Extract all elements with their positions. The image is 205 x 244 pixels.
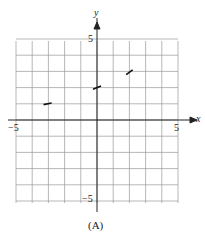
y-axis-label: y xyxy=(94,7,98,18)
figure-caption: (A) xyxy=(88,219,103,231)
y-max-tick: 5 xyxy=(88,33,93,44)
data-segment xyxy=(44,103,52,105)
x-axis-label: x xyxy=(196,113,200,124)
x-max-tick: 5 xyxy=(174,122,179,133)
y-arrow-icon xyxy=(94,22,100,29)
x-min-tick: −5 xyxy=(8,122,19,133)
y-min-tick: −5 xyxy=(82,193,93,204)
